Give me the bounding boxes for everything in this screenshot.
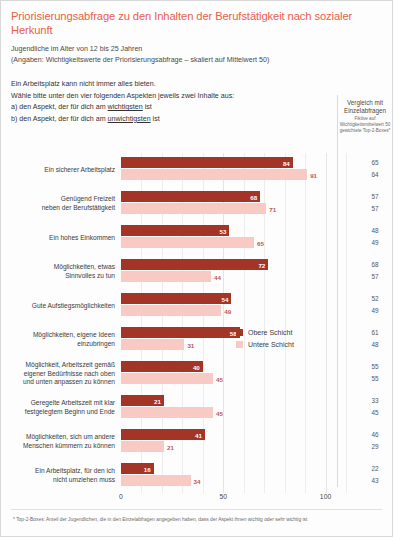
comparison-value: 48 bbox=[348, 341, 393, 348]
bar-upper: 68 bbox=[121, 191, 260, 202]
comparison-value: 61 bbox=[348, 329, 393, 336]
subtitle-line-2: (Angaben: Wichtigkeitswerte der Priorisi… bbox=[11, 55, 382, 66]
comparison-value: 65 bbox=[348, 159, 393, 166]
comparison-header-line-1: Vergleich mit bbox=[338, 99, 392, 107]
bar-value-label: 53 bbox=[220, 227, 230, 234]
bar-value-label: 65 bbox=[254, 239, 264, 246]
comparison-value: 22 bbox=[348, 465, 393, 472]
intro-4-post: ist bbox=[151, 115, 160, 123]
bar-upper: 40 bbox=[121, 361, 203, 372]
bar-track: 34 bbox=[121, 475, 346, 486]
comparison-value: 68 bbox=[348, 261, 393, 268]
intro-3-post: ist bbox=[143, 103, 152, 111]
bar-lower: 45 bbox=[121, 407, 213, 418]
row-bars: 6871 bbox=[121, 191, 346, 217]
bar-track: 72 bbox=[121, 259, 346, 270]
bar-value-label: 91 bbox=[307, 171, 317, 178]
bar-lower: 45 bbox=[121, 373, 213, 384]
comparison-value: 46 bbox=[348, 431, 393, 438]
bar-upper: 16 bbox=[121, 463, 154, 474]
comparison-header-line-2: Einzelabfragen bbox=[338, 107, 392, 115]
bar-value-label: 40 bbox=[193, 363, 203, 370]
subtitle-line-1: Jugendliche im Alter von 12 bis 25 Jahre… bbox=[11, 44, 382, 55]
bar-lower: 49 bbox=[121, 305, 221, 316]
legend-item[interactable]: Untere Schicht bbox=[236, 338, 336, 350]
bar-track: 84 bbox=[121, 157, 346, 168]
bar-track: 44 bbox=[121, 271, 346, 282]
bar-lower: 91 bbox=[121, 169, 307, 180]
bar-lower: 34 bbox=[121, 475, 191, 486]
bar-lower: 21 bbox=[121, 441, 164, 452]
subtitle-block: Jugendliche im Alter von 12 bis 25 Jahre… bbox=[11, 44, 382, 66]
chart-legend: Obere SchichtUntere Schicht bbox=[236, 326, 336, 350]
comparison-value: 55 bbox=[348, 375, 393, 382]
comparison-value: 48 bbox=[348, 227, 393, 234]
bar-value-label: 44 bbox=[211, 273, 221, 280]
legend-label: Obere Schicht bbox=[248, 329, 292, 336]
legend-swatch-icon bbox=[236, 329, 243, 336]
comparison-value: 49 bbox=[348, 307, 393, 314]
bar-upper: 53 bbox=[121, 225, 229, 236]
bar-track: 21 bbox=[121, 395, 346, 406]
row-label: Ein hohes Einkommen bbox=[11, 234, 115, 243]
chart-row: Ein Arbeitsplatz, für den ichnicht umzie… bbox=[11, 459, 384, 493]
legend-item[interactable]: Obere Schicht bbox=[236, 326, 336, 338]
row-label: Geregelte Arbeitszeit mit klarfestgelegt… bbox=[11, 399, 115, 416]
row-bars: 4045 bbox=[121, 361, 346, 387]
intro-3-pre: a) den Aspekt, der für dich am bbox=[11, 103, 108, 111]
bar-chart: Ein sicherer Arbeitsplatz84916564Genügen… bbox=[11, 153, 384, 493]
bar-value-label: 21 bbox=[164, 443, 174, 450]
row-bars: 4121 bbox=[121, 429, 346, 455]
row-bars: 7244 bbox=[121, 259, 346, 285]
x-axis-tick: 100 bbox=[320, 493, 331, 500]
chart-row: Ein hohes Einkommen53654849 bbox=[11, 221, 384, 255]
chart-page: Priorisierungsabfrage zu den Inhalten de… bbox=[0, 0, 393, 537]
bar-upper: 72 bbox=[121, 259, 268, 270]
bar-track: 65 bbox=[121, 237, 346, 248]
bar-track: 91 bbox=[121, 169, 346, 180]
bar-value-label: 31 bbox=[184, 341, 194, 348]
intro-3-underline: wichtigsten bbox=[108, 103, 143, 111]
page-title: Priorisierungsabfrage zu den Inhalten de… bbox=[11, 9, 382, 37]
x-axis-tick: 0 bbox=[119, 493, 123, 500]
bar-value-label: 72 bbox=[258, 261, 268, 268]
comparison-value: 57 bbox=[348, 273, 393, 280]
bar-track: 45 bbox=[121, 407, 346, 418]
row-bars: 8491 bbox=[121, 157, 346, 183]
comparison-value: 57 bbox=[348, 193, 393, 200]
chart-rows: Ein sicherer Arbeitsplatz84916564Genügen… bbox=[11, 153, 384, 493]
bar-track: 49 bbox=[121, 305, 346, 316]
bar-value-label: 16 bbox=[144, 465, 154, 472]
row-label: Möglichkeiten, etwasSinnvolles zu tun bbox=[11, 263, 115, 280]
bar-lower: 71 bbox=[121, 203, 266, 214]
chart-row: Möglichkeiten, etwasSinnvolles zu tun724… bbox=[11, 255, 384, 289]
intro-4-pre: b) den Aspekt, der für dich am bbox=[11, 115, 108, 123]
comparison-value: 33 bbox=[348, 397, 393, 404]
comparison-value: 57 bbox=[348, 205, 393, 212]
bar-track: 54 bbox=[121, 293, 346, 304]
chart-row: Ein sicherer Arbeitsplatz84916564 bbox=[11, 153, 384, 187]
comparison-value: 45 bbox=[348, 409, 393, 416]
footnote: * Top-2-Boxes: Anteil der Jugendlichen, … bbox=[13, 516, 382, 523]
bar-upper: 54 bbox=[121, 293, 231, 304]
comparison-column-header: Vergleich mit Einzelabfragen Fiktive auf… bbox=[338, 99, 392, 134]
bar-value-label: 45 bbox=[213, 375, 223, 382]
row-label: Möglichkeit, Arbeitszeit gemäßeigener Be… bbox=[11, 361, 115, 387]
intro-line-4: b) den Aspekt, der für dich am unwichtig… bbox=[11, 114, 382, 126]
chart-row: Genügend Freizeitneben der Berufstätigke… bbox=[11, 187, 384, 221]
row-bars: 5365 bbox=[121, 225, 346, 251]
row-bars: 2145 bbox=[121, 395, 346, 421]
x-axis: 050100 bbox=[121, 493, 346, 509]
row-label: Genügend Freizeitneben der Berufstätigke… bbox=[11, 195, 115, 212]
row-label: Ein Arbeitsplatz, für den ichnicht umzie… bbox=[11, 467, 115, 484]
intro-block: Ein Arbeitsplatz kann nicht immer alles … bbox=[11, 79, 382, 125]
bar-value-label: 71 bbox=[266, 205, 276, 212]
bar-lower: 31 bbox=[121, 339, 184, 350]
x-axis-tick: 50 bbox=[219, 493, 227, 500]
bar-upper: 41 bbox=[121, 429, 205, 440]
chart-row: Geregelte Arbeitszeit mit klarfestgelegt… bbox=[11, 391, 384, 425]
bar-track: 41 bbox=[121, 429, 346, 440]
bar-value-label: 68 bbox=[250, 193, 260, 200]
comparison-value: 29 bbox=[348, 443, 393, 450]
bar-track: 68 bbox=[121, 191, 346, 202]
